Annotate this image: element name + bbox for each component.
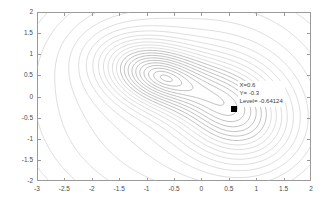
y-tick-label: -1 <box>27 136 33 143</box>
data-tip-box[interactable]: X=0.6 Y= -0.3 Level= -0.64124 <box>238 81 285 107</box>
x-tick-label: 0 <box>200 186 204 193</box>
data-tip-x: X=0.6 <box>240 82 283 90</box>
x-tick-mark <box>256 13 257 16</box>
y-tick-mark <box>38 97 41 98</box>
y-tick-mark <box>307 160 310 161</box>
x-tick-mark <box>147 13 148 16</box>
x-tick-mark <box>147 178 148 181</box>
y-tick-mark <box>307 54 310 55</box>
x-tick-mark <box>256 178 257 181</box>
x-tick-mark <box>64 13 65 16</box>
y-tick-label: 1.5 <box>24 30 33 37</box>
data-tip-level: Level= -0.64124 <box>240 98 283 106</box>
x-tick-label: 1 <box>254 186 258 193</box>
x-tick-label: 0.5 <box>224 186 233 193</box>
x-tick-mark <box>92 13 93 16</box>
x-tick-mark <box>229 13 230 16</box>
contour-plot-figure: X=0.6 Y= -0.3 Level= -0.64124 -3-2.5-2-1… <box>0 0 324 204</box>
contour-level <box>160 75 172 82</box>
y-tick-label: -1.5 <box>22 157 33 164</box>
y-tick-mark <box>307 33 310 34</box>
x-tick-mark <box>174 178 175 181</box>
y-tick-mark <box>307 139 310 140</box>
y-tick-mark <box>38 160 41 161</box>
contour-level <box>37 12 76 181</box>
y-tick-mark <box>307 118 310 119</box>
x-tick-mark <box>284 178 285 181</box>
y-tick-mark <box>38 118 41 119</box>
y-tick-mark <box>38 54 41 55</box>
x-tick-label: -2 <box>89 186 95 193</box>
y-tick-label: 2 <box>29 9 33 16</box>
contour-level <box>140 63 237 116</box>
x-tick-mark <box>119 178 120 181</box>
x-tick-label: -3 <box>34 186 40 193</box>
y-tick-mark <box>38 139 41 140</box>
x-tick-label: 2 <box>309 186 313 193</box>
data-point-marker[interactable] <box>231 106 237 112</box>
x-tick-label: 1.5 <box>279 186 288 193</box>
x-tick-mark <box>174 13 175 16</box>
x-tick-label: -1.5 <box>114 186 125 193</box>
data-tip-y: Y= -0.3 <box>240 90 283 98</box>
y-tick-label: -2 <box>27 178 33 185</box>
x-tick-mark <box>229 178 230 181</box>
y-tick-label: -0.5 <box>22 114 33 121</box>
y-tick-mark <box>38 33 41 34</box>
y-tick-mark <box>307 97 310 98</box>
plot-axes-area: X=0.6 Y= -0.3 Level= -0.64124 <box>37 12 311 181</box>
x-tick-label: -2.5 <box>59 186 70 193</box>
x-tick-label: -1 <box>144 186 150 193</box>
x-tick-mark <box>284 13 285 16</box>
y-tick-mark <box>38 75 41 76</box>
x-tick-mark <box>201 178 202 181</box>
y-tick-label: 0.5 <box>24 72 33 79</box>
x-tick-mark <box>92 178 93 181</box>
y-tick-label: 0 <box>29 93 33 100</box>
x-tick-mark <box>119 13 120 16</box>
x-tick-mark <box>64 178 65 181</box>
y-tick-mark <box>307 75 310 76</box>
y-tick-label: 1 <box>29 51 33 58</box>
x-tick-label: -0.5 <box>168 186 179 193</box>
x-tick-mark <box>201 13 202 16</box>
